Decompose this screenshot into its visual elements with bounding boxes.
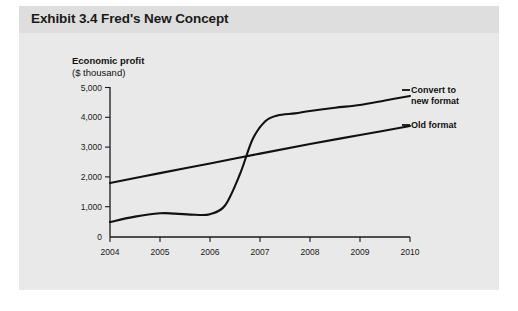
x-tick-label-2010: 2010: [401, 247, 420, 257]
y-axis-ticks: 5,000 4,000 3,000 2,000 1,000 0: [81, 83, 110, 242]
y-tick-label-3000: 3,000: [81, 142, 103, 152]
y-tick-label-4000: 4,000: [81, 112, 103, 122]
exhibit-title-band: Exhibit 3.4 Fred's New Concept: [19, 6, 499, 33]
exhibit-page: Exhibit 3.4 Fred's New Concept Economic …: [0, 0, 518, 311]
x-tick-label-2006: 2006: [201, 247, 220, 257]
x-tick-label-2005: 2005: [151, 247, 170, 257]
page-title: Exhibit 3.4 Fred's New Concept: [31, 11, 229, 26]
series-line-old-format: [110, 126, 410, 183]
chart-canvas: 5,000 4,000 3,000 2,000 1,000 0: [19, 33, 499, 290]
exhibit-panel: Exhibit 3.4 Fred's New Concept Economic …: [19, 6, 499, 290]
y-tick-label-1000: 1,000: [81, 202, 103, 212]
x-tick-label-2009: 2009: [351, 247, 370, 257]
y-tick-label-2000: 2,000: [81, 172, 103, 182]
series-label-new-format: Convert to new format: [411, 85, 459, 106]
series-label-new-format-line2: new format: [411, 96, 459, 106]
series-line-new-format: [110, 96, 410, 222]
chart-plot-region: Economic profit ($ thousand) 5,000 4,000…: [19, 33, 499, 290]
y-tick-label-0: 0: [97, 232, 102, 242]
series-label-new-format-line1: Convert to: [411, 85, 456, 95]
x-axis-ticks: 2004 2005 2006 2007 2008 2009 2010: [101, 237, 420, 257]
series-label-old-format-text: Old format: [411, 120, 457, 130]
x-tick-label-2008: 2008: [301, 247, 320, 257]
y-tick-label-5000: 5,000: [81, 83, 103, 93]
x-tick-label-2007: 2007: [251, 247, 270, 257]
series-label-old-format: Old format: [411, 120, 457, 131]
x-tick-label-2004: 2004: [101, 247, 120, 257]
